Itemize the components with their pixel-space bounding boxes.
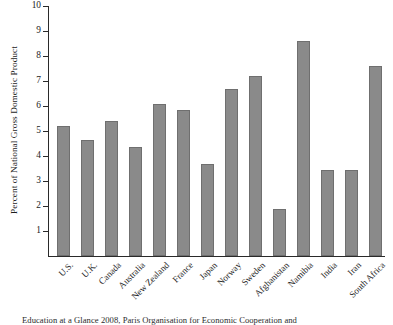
bar: [345, 170, 358, 256]
y-tick-mark: [43, 181, 49, 182]
x-tick-label: Norway: [215, 260, 243, 288]
x-tick-label: U.K.: [79, 260, 99, 280]
x-tick-label: Japan: [197, 260, 219, 282]
x-tick-label: India: [318, 260, 338, 280]
x-tick-label: U.S.: [56, 260, 75, 279]
y-tick-mark: [43, 6, 49, 7]
bar: [57, 126, 70, 256]
figure-caption: Education at a Glance 2008, Paris Organi…: [22, 315, 297, 325]
y-tick-mark: [43, 81, 49, 82]
bar: [225, 89, 238, 257]
y-tick-mark: [43, 31, 49, 32]
bar: [273, 209, 286, 257]
y-tick-label: 6: [36, 101, 41, 110]
y-axis-title: Percent of National Gross Domestic Produ…: [9, 14, 19, 246]
y-tick-mark: [43, 206, 49, 207]
y-tick-label: 10: [32, 1, 41, 10]
y-tick-label: 5: [36, 126, 41, 135]
y-tick-label: 2: [36, 201, 41, 210]
y-tick-mark: [43, 231, 49, 232]
bar: [177, 110, 190, 256]
x-tick-label: Namibia: [285, 260, 314, 289]
x-tick-label: France: [170, 260, 195, 285]
y-tick-label: 3: [36, 176, 41, 185]
bar: [129, 147, 142, 256]
y-tick-label: 8: [36, 51, 41, 60]
y-tick-label: 4: [36, 151, 41, 160]
y-tick-mark: [43, 131, 49, 132]
bar: [249, 76, 262, 256]
y-tick-label: 9: [36, 26, 41, 35]
plot-area: 12345678910 U.S.U.K.CanadaAustraliaNew Z…: [48, 6, 385, 256]
x-axis-line: [48, 256, 385, 257]
bar: [81, 140, 94, 256]
bar: [153, 104, 166, 257]
y-tick-label: 7: [36, 76, 41, 85]
x-tick-label: Iran: [345, 260, 362, 277]
bar: [297, 41, 310, 256]
bar: [369, 66, 382, 256]
y-tick-mark: [43, 106, 49, 107]
y-tick-mark: [43, 56, 49, 57]
y-tick-label: 1: [36, 226, 41, 235]
bar: [201, 164, 214, 257]
y-tick-mark: [43, 156, 49, 157]
bar: [321, 170, 334, 256]
bar: [105, 121, 118, 256]
